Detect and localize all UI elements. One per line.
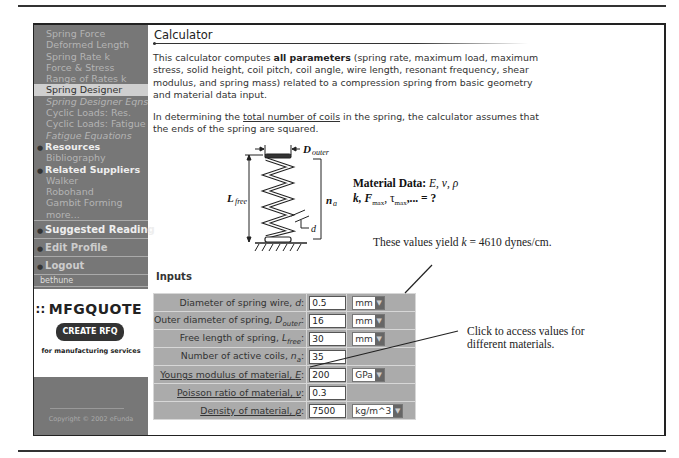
- annotation-arrows: [0, 0, 679, 458]
- bottom-divider: [18, 450, 666, 452]
